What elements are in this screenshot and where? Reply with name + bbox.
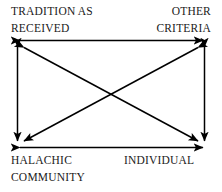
node-label-halachic-community: HALACHIC COMMUNITY — [11, 152, 85, 185]
node-label-line-1: HALACHIC — [11, 152, 85, 169]
node-label-other-criteria: OTHER CRITERIA — [156, 3, 211, 36]
node-label-tradition-as-received: TRADITION AS RECEIVED — [11, 3, 93, 36]
node-label-line-2: CRITERIA — [156, 20, 211, 37]
node-label-individual: INDIVIDUAL — [124, 152, 194, 169]
node-label-line-1: INDIVIDUAL — [124, 152, 194, 169]
node-label-line-1: TRADITION AS — [11, 3, 93, 20]
node-label-line-2: COMMUNITY — [11, 169, 85, 186]
node-label-line-1: OTHER — [156, 3, 211, 20]
diagram-canvas: TRADITION AS RECEIVED OTHER CRITERIA HAL… — [0, 0, 222, 192]
node-label-line-2: RECEIVED — [11, 20, 93, 37]
